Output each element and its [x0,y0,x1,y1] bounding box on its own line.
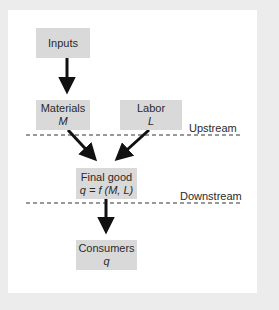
upstream-label: Upstream [189,122,237,134]
node-materials-title: Materials [41,102,86,115]
node-final-good-formula: q = f (M, L) [80,184,134,197]
arrow-materials-to-final-good [68,130,94,158]
node-consumers-symbol: q [103,255,109,268]
node-inputs: Inputs [36,28,90,58]
arrow-labor-to-final-good [118,130,149,158]
node-final-good: Final good q = f (M, L) [76,168,137,199]
node-labor: Labor L [120,100,182,130]
node-materials: Materials M [36,100,90,130]
node-final-good-title: Final good [81,171,132,184]
node-materials-symbol: M [58,115,67,128]
downstream-label: Downstream [180,190,242,202]
node-consumers-title: Consumers [78,242,134,255]
node-consumers: Consumers q [76,240,137,270]
node-labor-symbol: L [148,115,154,128]
node-inputs-title: Inputs [48,37,78,50]
node-labor-title: Labor [137,102,165,115]
